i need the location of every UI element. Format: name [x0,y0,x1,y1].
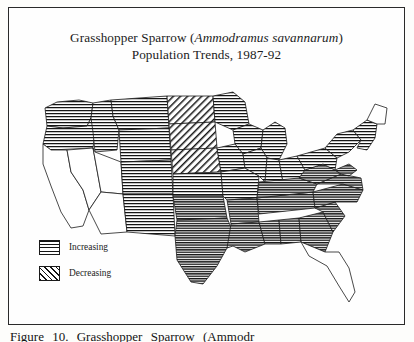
region-colorado [121,160,173,194]
figure-title: Grasshopper Sparrow (Ammodramus savannar… [9,30,404,64]
region-south-dakota [169,122,217,150]
title-paren-close: ) [338,30,343,45]
region-oklahoma [173,196,227,220]
legend-item-decreasing: Decreasing [39,262,159,284]
region-new-england [353,120,377,150]
region-texas [175,218,233,284]
region-washington [45,100,93,128]
title-line-period: Population Trends, 1987-92 [9,47,404,64]
region-montana [111,96,169,130]
title-common-name: Grasshopper Sparrow ( [70,30,194,45]
region-florida [301,242,355,302]
legend-swatch-diagonal-icon [39,266,60,281]
region-minnesota [213,92,249,130]
region-wyoming [119,128,171,162]
legend-swatch-horizontal-icon [39,240,60,255]
figure-root: Grasshopper Sparrow (Ammodramus savannar… [0,0,414,342]
figure-caption-text: Figure 10. Grasshopper Sparrow (Ammodr [10,331,404,342]
figure-caption: Figure 10. Grasshopper Sparrow (Ammodr [10,331,404,342]
region-kansas [173,172,223,196]
figure-frame: Grasshopper Sparrow (Ammodramus savannar… [8,7,405,325]
region-nebraska [171,148,221,174]
title-line-species: Grasshopper Sparrow (Ammodramus savannar… [9,30,404,47]
region-alabama [279,218,301,244]
legend-label-decreasing: Decreasing [69,268,111,278]
title-scientific-name: Ammodramus savannarum [195,30,339,45]
map-legend: Increasing Decreasing [39,236,159,288]
region-louisiana [227,222,265,252]
region-maine [367,104,387,124]
legend-label-increasing: Increasing [69,242,108,252]
region-new-mexico [123,194,175,236]
region-north-dakota [167,96,215,124]
legend-item-increasing: Increasing [39,236,159,258]
region-arkansas [227,198,259,224]
